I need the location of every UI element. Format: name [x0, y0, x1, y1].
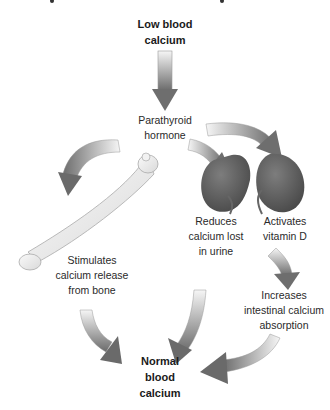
node-pth-line-2: hormone [120, 128, 210, 143]
node-normal-line-2: blood [130, 369, 190, 385]
node-normal-blood-calcium: Normal blood calcium [130, 353, 190, 401]
node-urine-line-1: Reduces [176, 214, 256, 229]
node-vitd-line-1: Activates [250, 214, 320, 229]
node-bone-release: Stimulates calcium release from bone [42, 253, 142, 298]
node-urine-reduction: Reduces calcium lost in urine [176, 214, 256, 259]
arrow-pth-to-kidney-right [206, 123, 282, 158]
node-bone-line-1: Stimulates [42, 253, 142, 268]
diagram-graphics [0, 0, 330, 410]
arrow-low-to-pth [152, 51, 178, 111]
node-bone-line-2: calcium release [42, 268, 142, 283]
node-activates-vitamin-d: Activates vitamin D [250, 214, 320, 244]
node-intestine-line-1: Increases [234, 288, 330, 303]
node-normal-line-3: calcium [130, 385, 190, 401]
node-intestine-line-3: absorption [234, 318, 330, 333]
kidney-right-icon [256, 154, 304, 214]
calcium-regulation-diagram: Low blood calcium Parathyroid hormone St… [0, 0, 330, 410]
node-pth-line-1: Parathyroid [120, 113, 210, 128]
arrow-intestine-to-normal [200, 334, 280, 384]
node-intestine-line-2: intestinal calcium [234, 303, 330, 318]
arrow-bone-to-normal [80, 310, 122, 364]
node-bone-line-3: from bone [42, 283, 142, 298]
node-urine-line-2: calcium lost [176, 229, 256, 244]
node-intestinal-absorption: Increases intestinal calcium absorption [234, 288, 330, 333]
node-urine-line-3: in urine [176, 244, 256, 259]
clipped-title-fragment [50, 0, 224, 3]
node-low-line-1: Low blood [130, 16, 200, 32]
node-low-line-2: calcium [130, 32, 200, 48]
kidney-left-icon [201, 155, 250, 214]
node-parathyroid-hormone: Parathyroid hormone [120, 113, 210, 143]
node-normal-line-1: Normal [130, 353, 190, 369]
node-low-blood-calcium: Low blood calcium [130, 16, 200, 48]
arrow-vitd-to-intestine [268, 248, 300, 290]
node-vitd-line-2: vitamin D [250, 229, 320, 244]
arrow-pth-to-bone [58, 140, 120, 196]
